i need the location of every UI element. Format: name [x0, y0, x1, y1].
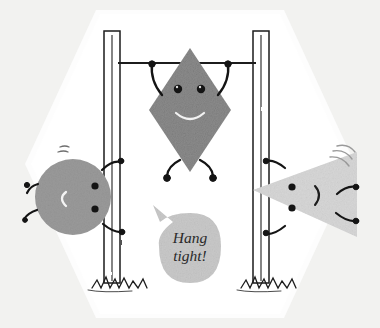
circle-eye-lower: [91, 205, 98, 212]
diamond-eye-right: [197, 85, 205, 93]
speech-bubble-line-2: tight!: [173, 247, 207, 264]
illustration-scene: Hang tight!: [0, 0, 380, 328]
circle-body: [35, 159, 111, 235]
speech-bubble-line-1: Hang: [172, 229, 208, 246]
circle-eye-upper: [91, 182, 98, 189]
triangle-eye-upper: [288, 183, 295, 190]
triangle-eye-lower: [288, 204, 295, 211]
diamond-eye-left: [174, 85, 182, 93]
